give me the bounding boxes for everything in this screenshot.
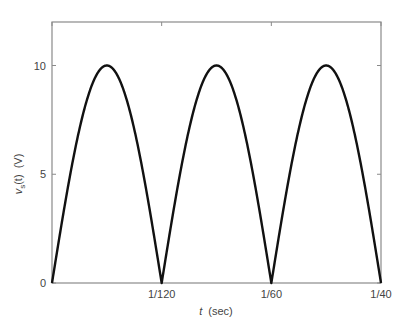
x-tick-label: 1/60 [261,288,282,300]
x-tick-labels: 1/1201/601/40 [148,288,392,300]
y-tick-label: 5 [40,168,46,180]
y-tick-label: 0 [40,277,46,289]
y-tick-labels: 0510 [34,60,46,290]
chart: 1/1201/601/40 0510 t (sec) vs(t) (V) [0,0,406,332]
plot-background [52,22,381,283]
x-axis-label: t (sec) [199,305,233,317]
y-axis-label: vs(t) (V) [12,154,27,195]
y-tick-label: 10 [34,60,46,72]
x-tick-label: 1/40 [370,288,391,300]
x-tick-label: 1/120 [148,288,176,300]
